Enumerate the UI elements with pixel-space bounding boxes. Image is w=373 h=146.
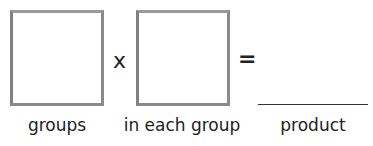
in-each-group-input-box[interactable] <box>136 10 230 106</box>
product-answer-field[interactable] <box>258 80 368 104</box>
groups-input-box[interactable] <box>10 10 104 106</box>
times-sign: x <box>113 50 126 72</box>
groups-label: groups <box>10 117 104 134</box>
product-underline <box>258 104 368 105</box>
in-each-group-label: in each group <box>118 117 246 134</box>
product-label: product <box>268 117 358 134</box>
equals-sign: = <box>238 48 256 70</box>
